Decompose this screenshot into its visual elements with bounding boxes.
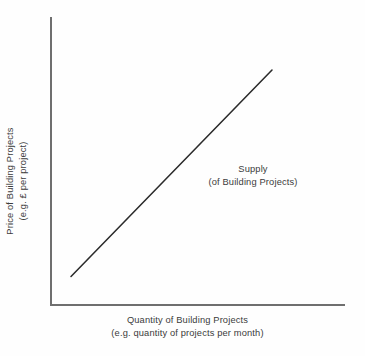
y-axis-label-main: Price of Building Projects	[4, 127, 17, 234]
x-axis-label-main: Quantity of Building Projects	[50, 314, 325, 327]
supply-label: Supply	[188, 163, 318, 176]
x-axis-label: Quantity of Building Projects (e.g. quan…	[50, 314, 325, 341]
supply-curve-figure: Price of Building Projects (e.g. £ per p…	[0, 0, 365, 356]
supply-label-sub: (of Building Projects)	[188, 176, 318, 189]
x-axis-label-units: (e.g. quantity of projects per month)	[50, 327, 325, 340]
y-axis-label-units: (e.g. £ per project)	[17, 142, 30, 221]
supply-curve-annotation: Supply (of Building Projects)	[188, 163, 318, 190]
y-axis-label: Price of Building Projects (e.g. £ per p…	[0, 36, 34, 326]
